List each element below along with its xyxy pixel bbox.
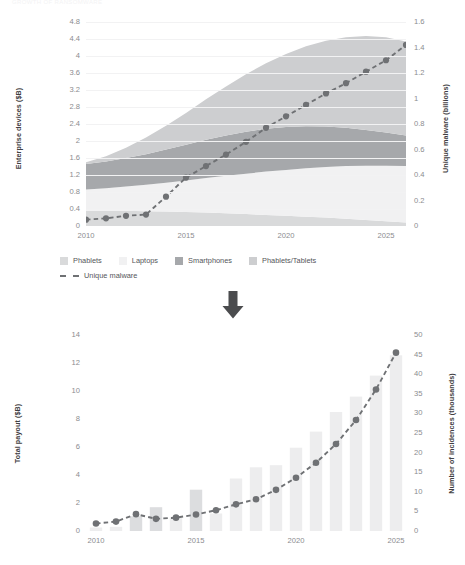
top-chart-plot-area bbox=[86, 22, 406, 226]
x-tick-label: 2015 bbox=[176, 537, 216, 545]
data-point-marker bbox=[293, 474, 300, 481]
data-point-marker bbox=[253, 496, 260, 503]
y-tick-label: 3.6 bbox=[46, 69, 80, 77]
data-point-marker bbox=[233, 501, 240, 508]
bar bbox=[390, 355, 402, 531]
legend-row-swatches: PhabletsLaptopsSmartphonesPhablets/Table… bbox=[60, 256, 333, 265]
y-tick-label: 2.8 bbox=[46, 103, 80, 111]
data-point-marker bbox=[353, 417, 360, 424]
data-point-marker bbox=[133, 511, 140, 518]
y2-tick-label: 0.8 bbox=[414, 120, 448, 128]
y-tick-label: 4.8 bbox=[46, 18, 80, 26]
gridline bbox=[86, 56, 406, 57]
gridline bbox=[86, 175, 406, 176]
gridline bbox=[86, 90, 406, 91]
y2-tick-label: 0.6 bbox=[414, 146, 448, 154]
data-point-marker bbox=[273, 487, 280, 494]
gridline bbox=[86, 124, 406, 125]
bar bbox=[270, 465, 282, 531]
legend-swatch-icon bbox=[175, 257, 183, 265]
x-tick-label: 2020 bbox=[266, 232, 306, 240]
data-point-marker bbox=[93, 520, 100, 527]
bottom-chart-plot-area bbox=[86, 335, 406, 531]
y2-tick-label: 15 bbox=[414, 468, 448, 476]
top-chart-legend: PhabletsLaptopsSmartphonesPhablets/Table… bbox=[60, 256, 420, 286]
x-tick-label: 2025 bbox=[366, 232, 406, 240]
y-tick-label: 4 bbox=[46, 52, 80, 60]
data-point-marker bbox=[313, 459, 320, 466]
legend-label: Unique malware bbox=[84, 271, 137, 280]
y-tick-label: 8 bbox=[46, 415, 80, 423]
data-point-marker bbox=[113, 518, 120, 525]
y-tick-label: 0 bbox=[46, 527, 80, 535]
legend-item-phablets[interactable]: Phablets bbox=[60, 256, 102, 265]
x-tick-label: 2025 bbox=[376, 537, 416, 545]
gridline bbox=[86, 39, 406, 40]
y-tick-label: 10 bbox=[46, 387, 80, 395]
data-point-marker bbox=[103, 215, 109, 221]
y2-tick-label: 1 bbox=[414, 95, 448, 103]
data-point-marker bbox=[343, 80, 349, 86]
y2-tick-label: 1.2 bbox=[414, 69, 448, 77]
y2-tick-label: 0 bbox=[414, 527, 448, 535]
legend-label: Smartphones bbox=[188, 256, 232, 265]
y2-tick-label: 45 bbox=[414, 351, 448, 359]
data-point-marker bbox=[383, 57, 389, 63]
legend-dashed-line-icon bbox=[60, 275, 79, 277]
data-point-marker bbox=[323, 90, 329, 96]
data-point-marker bbox=[223, 152, 229, 158]
bar bbox=[130, 516, 142, 531]
bottom-chart-left-axis-title: Total payout ($B) bbox=[13, 384, 22, 484]
y2-tick-label: 0.2 bbox=[414, 197, 448, 205]
legend-item-phablets-tablets[interactable]: Phablets/Tablets bbox=[249, 256, 316, 265]
data-point-marker bbox=[173, 514, 180, 521]
legend-label: Laptops bbox=[132, 256, 158, 265]
bar bbox=[210, 514, 222, 532]
bar bbox=[310, 432, 322, 531]
y-tick-label: 1.2 bbox=[46, 171, 80, 179]
y-tick-label: 12 bbox=[46, 359, 80, 367]
y-tick-label: 2.4 bbox=[46, 120, 80, 128]
y-tick-label: 14 bbox=[46, 331, 80, 339]
x-tick-label: 2010 bbox=[66, 232, 106, 240]
legend-item-unique-malware[interactable]: Unique malware bbox=[60, 271, 137, 280]
y-tick-label: 3.2 bbox=[46, 86, 80, 94]
data-point-marker bbox=[213, 507, 220, 514]
y-tick-label: 0.8 bbox=[46, 188, 80, 196]
ransomware-growth-infographic: GROWTH OF RANSOMWARE Enterprise devices … bbox=[0, 0, 465, 565]
bar bbox=[110, 527, 122, 531]
y-tick-label: 1.6 bbox=[46, 154, 80, 162]
legend-item-smartphones[interactable]: Smartphones bbox=[175, 256, 232, 265]
top-chart-left-axis-title: Enterprise devices ($B) bbox=[14, 74, 23, 184]
y-tick-label: 6 bbox=[46, 443, 80, 451]
bar bbox=[190, 490, 202, 531]
payout-incidences-chart: Total payout ($B) Number of incidences (… bbox=[0, 325, 465, 565]
legend-swatch-icon bbox=[119, 257, 127, 265]
y2-tick-label: 30 bbox=[414, 409, 448, 417]
y2-tick-label: 25 bbox=[414, 429, 448, 437]
banner-title: GROWTH OF RANSOMWARE bbox=[12, 0, 102, 5]
y-tick-label: 2 bbox=[46, 499, 80, 507]
data-point-marker bbox=[203, 163, 209, 169]
enterprise-devices-malware-chart: Enterprise devices ($B) Unique malware (… bbox=[0, 8, 465, 248]
data-point-marker bbox=[193, 511, 200, 518]
gridline bbox=[86, 209, 406, 210]
legend-item-laptops[interactable]: Laptops bbox=[119, 256, 158, 265]
legend-swatch-icon bbox=[249, 257, 257, 265]
y-tick-label: 4.4 bbox=[46, 35, 80, 43]
gridline bbox=[86, 192, 406, 193]
bottom-chart-svg bbox=[86, 335, 406, 531]
bar bbox=[90, 528, 102, 532]
down-arrow-icon bbox=[218, 290, 248, 320]
y-tick-label: 2 bbox=[46, 137, 80, 145]
legend-swatch-icon bbox=[60, 257, 68, 265]
data-point-marker bbox=[263, 125, 269, 131]
gridline bbox=[86, 22, 406, 23]
legend-label: Phablets/Tablets bbox=[262, 256, 316, 265]
gridline bbox=[86, 158, 406, 159]
data-point-marker bbox=[143, 211, 149, 217]
x-tick-label: 2020 bbox=[276, 537, 316, 545]
y2-tick-label: 35 bbox=[414, 390, 448, 398]
gridline bbox=[86, 141, 406, 142]
y-tick-label: 0 bbox=[46, 222, 80, 230]
